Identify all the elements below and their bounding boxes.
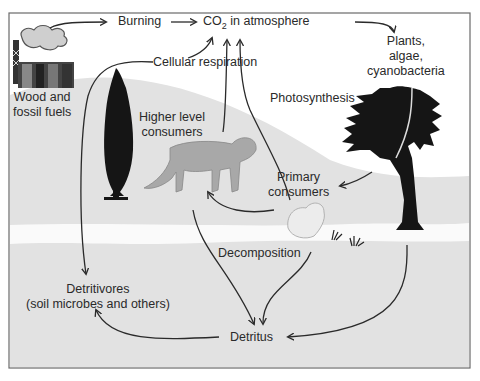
- co2-suffix: in atmosphere: [227, 14, 310, 28]
- label-photosynthesis: Photosynthesis: [270, 91, 355, 106]
- detritivores-line-2: (soil microbes and others): [26, 297, 170, 312]
- higher-line-1: Higher level: [139, 110, 205, 125]
- wood-line-2: fossil fuels: [13, 105, 71, 120]
- plants-line-3: cyanobacteria: [367, 64, 445, 79]
- label-plants: Plants, algae, cyanobacteria: [367, 34, 445, 79]
- primary-line-1: Primary: [268, 170, 329, 185]
- label-burning: Burning: [118, 14, 161, 29]
- label-decomposition: Decomposition: [218, 246, 301, 261]
- wood-line-1: Wood and: [13, 90, 71, 105]
- co2-prefix: CO: [203, 14, 222, 28]
- plants-line-1: Plants,: [367, 34, 445, 49]
- label-cellular-respiration: Cellular respiration: [153, 55, 257, 70]
- label-primary-consumers: Primary consumers: [268, 170, 329, 200]
- label-co2-atmosphere: CO2 in atmosphere: [203, 14, 309, 34]
- label-detritus: Detritus: [230, 330, 273, 345]
- label-detritivores: Detritivores (soil microbes and others): [26, 282, 170, 312]
- higher-line-2: consumers: [139, 125, 205, 140]
- primary-line-2: consumers: [268, 185, 329, 200]
- detritivores-line-1: Detritivores: [26, 282, 170, 297]
- label-higher-level-consumers: Higher level consumers: [139, 110, 205, 140]
- plants-line-2: algae,: [367, 49, 445, 64]
- label-wood-fossil-fuels: Wood and fossil fuels: [13, 90, 71, 120]
